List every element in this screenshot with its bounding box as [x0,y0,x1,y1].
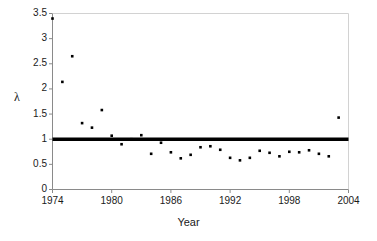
data-point [308,149,311,152]
x-tick-label: 1992 [208,196,252,206]
data-point [189,154,192,157]
x-tick-label: 1980 [90,196,134,206]
data-point [278,155,281,158]
data-point [140,134,143,137]
data-point [229,157,232,160]
data-point [130,138,133,141]
y-tick-label: 1 [15,134,47,144]
data-point [160,141,163,144]
data-point [91,126,94,129]
data-point [327,155,330,158]
data-point [219,148,222,151]
data-point [337,116,340,119]
data-point [298,151,301,154]
data-point [239,159,242,162]
y-tick-label: 3.5 [15,8,47,18]
x-tick-label: 1986 [149,196,193,206]
data-point [51,17,54,20]
x-tick-label: 2004 [327,196,371,206]
x-axis-ticks [53,190,349,194]
y-axis-ticks [49,14,53,190]
y-tick-label: 1.5 [15,109,47,119]
data-point [101,109,104,112]
x-tick-label: 1998 [267,196,311,206]
y-tick-label: 2.5 [15,58,47,68]
data-point [61,81,64,84]
data-point [268,151,271,154]
y-tick-label: 2 [15,83,47,93]
data-point [110,134,113,137]
data-point [258,149,261,152]
chart-figure: λ Year 00.511.522.533.5 1974198019861992… [0,0,377,241]
data-point [209,145,212,148]
x-tick-label: 1974 [31,196,75,206]
data-point [288,150,291,153]
data-point [318,152,321,155]
y-tick-label: 0 [15,184,47,194]
data-point [170,151,173,154]
data-point [120,143,123,146]
y-tick-label: 0.5 [15,159,47,169]
axes [53,14,349,190]
y-tick-label: 3 [15,33,47,43]
data-point [71,55,74,58]
data-point [179,157,182,160]
data-point [81,122,84,125]
data-point [199,146,202,149]
data-point [150,152,153,155]
data-point [249,157,252,160]
